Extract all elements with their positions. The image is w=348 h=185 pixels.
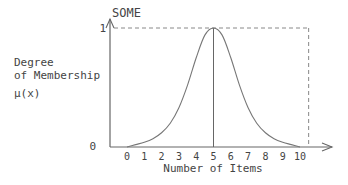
x-tick-label: 5 — [210, 151, 216, 162]
y-tick-label: 1 — [99, 22, 106, 35]
y-tick-label: 0 — [89, 140, 96, 153]
x-tick-label: 4 — [193, 151, 199, 162]
x-tick-label: 0 — [124, 151, 130, 162]
y-axis-label-line-2: of Membership — [14, 69, 100, 82]
tick-labels: 01234567891001 — [89, 22, 306, 162]
x-tick-label: 8 — [262, 151, 268, 162]
x-tick-label: 2 — [159, 151, 165, 162]
x-axis-label: Number of Items — [163, 162, 262, 175]
reference-lines — [114, 28, 309, 147]
axes — [106, 19, 332, 151]
x-tick-label: 1 — [141, 151, 147, 162]
y-axis-label-line-1: Degree — [14, 56, 54, 69]
membership-chart: SOME Degree of Membership μ(x) Number of… — [0, 0, 348, 185]
x-tick-label: 9 — [280, 151, 286, 162]
x-tick-label: 3 — [176, 151, 182, 162]
x-tick-label: 7 — [245, 151, 251, 162]
y-axis-symbol: μ(x) — [14, 87, 41, 100]
chart-title: SOME — [112, 6, 141, 20]
x-tick-label: 10 — [294, 151, 306, 162]
x-tick-label: 6 — [228, 151, 234, 162]
